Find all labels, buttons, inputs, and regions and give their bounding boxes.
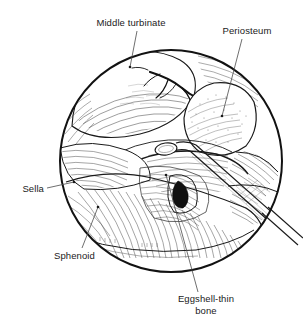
leader-dot-sphenoid: [97, 206, 100, 209]
leader-dot-sella: [73, 181, 76, 184]
label-eggshell-thin-bone: Eggshell-thin bone: [163, 293, 249, 316]
leader-dot-periosteum: [221, 115, 224, 118]
illustration-canvas: [0, 0, 303, 325]
label-middle-turbinate: Middle turbinate: [79, 17, 183, 29]
label-sella: Sella: [8, 183, 44, 195]
label-periosteum: Periosteum: [212, 25, 282, 37]
leader-dot-eggshell-thin-bone: [165, 174, 168, 177]
leader-dot-middle-turbinate: [129, 66, 132, 69]
label-sphenoid: Sphenoid: [54, 250, 112, 262]
medical-illustration-figure: Middle turbinate Periosteum Sella Spheno…: [0, 0, 303, 325]
